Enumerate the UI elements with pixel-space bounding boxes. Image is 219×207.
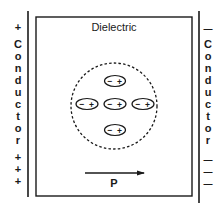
left-letter: u [15,86,22,98]
dipole-molecule-top: − + [105,76,126,87]
left-conductor-label: + C o n d u c t o r + + + [14,21,22,187]
left-letter: o [15,122,22,134]
negative-sign: − [136,99,141,109]
left-letter: o [15,50,22,62]
positive-sign: + [145,100,150,110]
left-letter: c [15,98,21,110]
positive-sign: + [117,100,122,110]
right-letter: u [205,86,212,98]
left-plus-sign: + [15,151,21,163]
positive-sign: + [89,100,94,110]
right-letter: t [206,110,210,122]
dipole-molecule-middle-left: − + [76,99,98,110]
left-letter: t [16,110,20,122]
left-letter: n [15,62,22,74]
dipole-molecule-center: − + [104,99,126,110]
left-letter: C [14,38,22,50]
right-minus-sign: — [204,167,213,177]
negative-sign: − [108,99,113,109]
left-letter: r [16,134,21,146]
negative-sign: − [80,99,85,109]
left-letter: d [15,74,22,86]
dielectric-label: Dielectric [91,21,137,33]
right-letter: r [206,134,211,146]
right-letter: d [205,74,212,86]
right-letter: o [205,50,212,62]
left-plus-sign: + [15,163,21,175]
negative-sign: − [108,76,113,86]
right-letter: n [205,62,212,74]
right-conductor-label: — C o n d u c t o r — — — [204,24,213,189]
positive-sign: + [117,126,122,136]
negative-sign: − [108,125,113,135]
dipole-molecule-middle-right: − + [132,99,154,110]
left-plus-sign: + [15,175,21,187]
right-letter: C [204,38,212,50]
positive-sign: + [117,77,122,87]
dipole-molecule-bottom: − + [105,125,126,136]
polarization-label: P [110,177,117,189]
right-minus-sign: — [204,155,213,165]
dielectric-polarization-diagram: Dielectric + C o n d u c t o r + + + — C… [0,0,219,207]
left-top-plus-sign: + [15,21,21,33]
right-minus-sign: — [204,179,213,189]
right-letter: o [205,122,212,134]
right-top-minus-sign: — [204,24,213,34]
right-letter: c [205,98,211,110]
